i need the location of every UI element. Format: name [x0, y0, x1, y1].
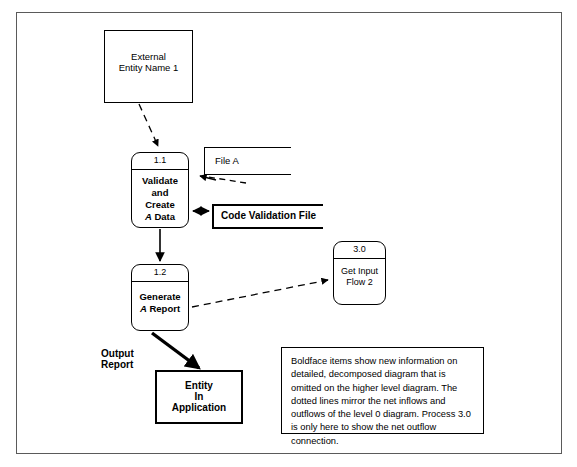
- process-1-2-divider: [132, 281, 188, 282]
- external-entity-label: External Entity Name 1: [104, 52, 193, 73]
- note-text: Boldface items show new information on d…: [291, 355, 475, 448]
- process-3-0-line-1: Get Input: [334, 266, 385, 277]
- process-1-2-line-2: A Report: [132, 303, 188, 315]
- process-3-0-line-2: Flow 2: [334, 277, 385, 288]
- data-store-code-validation-file-label: Code Validation File: [221, 210, 316, 221]
- process-1-1-entity-letter: A: [145, 211, 152, 222]
- note-box: Boldface items show new information on d…: [281, 347, 484, 434]
- process-3-0-number: 3.0: [334, 244, 385, 254]
- process-1-1-line-2: and: [132, 187, 188, 199]
- process-1-1-label: Validate and Create A Data: [132, 175, 188, 223]
- process-1-1-divider: [132, 169, 188, 170]
- data-store-file-a-label: File A: [215, 155, 239, 166]
- flow-process-12-to-process-30: [192, 280, 328, 307]
- data-store-code-validation-file[interactable]: Code Validation File: [212, 204, 323, 229]
- diagram-canvas: External Entity Name 1 1.1 Validate and …: [0, 0, 577, 467]
- process-1-1-line-4-rest: Data: [152, 211, 175, 222]
- process-1-2-label: Generate A Report: [132, 291, 188, 315]
- process-1-1-number: 1.1: [132, 155, 188, 165]
- process-1-1-line-1: Validate: [132, 175, 188, 187]
- data-store-file-a[interactable]: File A: [204, 147, 291, 175]
- process-box-1-2[interactable]: 1.2 Generate A Report: [131, 264, 189, 331]
- process-1-2-entity-letter: A: [140, 303, 147, 314]
- entity-in-application-label: Entity In Application: [155, 380, 243, 414]
- process-1-2-line-1: Generate: [132, 291, 188, 303]
- process-3-0-label: Get Input Flow 2: [334, 266, 385, 289]
- process-3-0-divider: [334, 258, 385, 259]
- process-box-1-1[interactable]: 1.1 Validate and Create A Data: [131, 152, 189, 228]
- process-box-3-0[interactable]: 3.0 Get Input Flow 2: [333, 241, 386, 305]
- process-1-1-line-3: Create: [132, 199, 188, 211]
- flow-process-11-to-file-a: [200, 176, 250, 184]
- process-1-2-number: 1.2: [132, 267, 188, 277]
- flow-entity-to-process-11: [139, 104, 158, 146]
- process-1-1-line-4: A Data: [132, 211, 188, 223]
- process-1-2-line-2-rest: Report: [147, 303, 180, 314]
- flow-label-output-report: Output Report: [101, 348, 163, 370]
